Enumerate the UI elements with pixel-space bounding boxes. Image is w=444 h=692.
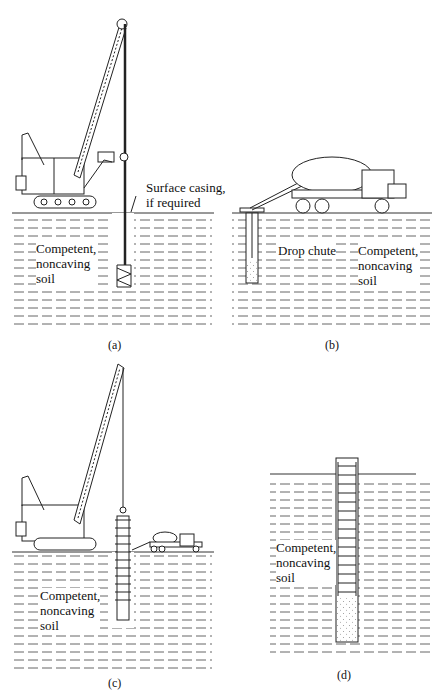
caption-b: (b) (325, 338, 339, 353)
soil-label-a: Competent,noncavingsoil (36, 241, 96, 286)
caption-d: (d) (337, 668, 351, 683)
caption-c: (c) (108, 676, 121, 691)
soil-label-d: Competent,noncavingsoil (276, 540, 336, 585)
surface-casing-label: Surface casing,if required (146, 180, 225, 210)
caption-a: (a) (108, 338, 121, 353)
drop-chute-label: Drop chute (278, 243, 336, 258)
soil-label-c: Competent,noncavingsoil (40, 588, 100, 633)
soil-label-b: Competent,noncavingsoil (358, 243, 418, 288)
